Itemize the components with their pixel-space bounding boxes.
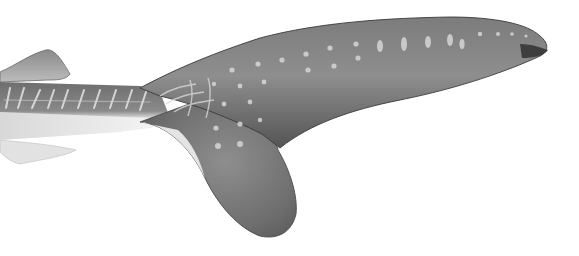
illustration-canvas [0, 0, 579, 256]
dorsal-fin [0, 50, 70, 82]
shark-tail-illustration [0, 0, 579, 256]
anal-fin [0, 140, 76, 164]
